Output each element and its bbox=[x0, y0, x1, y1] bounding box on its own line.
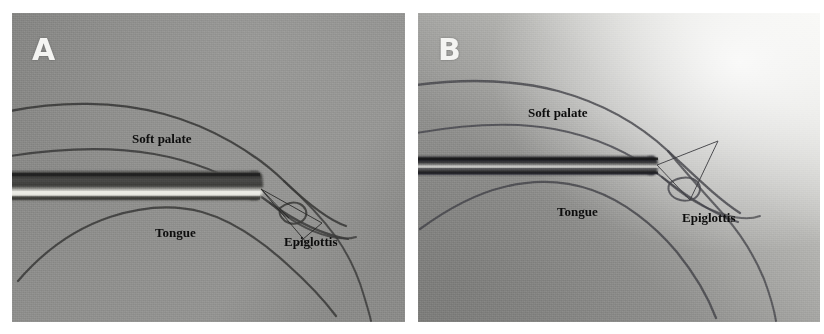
label-soft-palate-b: Soft palate bbox=[528, 106, 588, 119]
panel-a-image bbox=[12, 13, 405, 322]
panel-letter-b: B bbox=[438, 35, 461, 65]
label-soft-palate-a: Soft palate bbox=[132, 132, 192, 145]
endoscope-tube-a bbox=[12, 171, 263, 200]
figure-container: A Soft palate Tongue Epiglottis bbox=[0, 0, 824, 334]
label-tongue-b: Tongue bbox=[557, 205, 598, 218]
panel-a: A Soft palate Tongue Epiglottis bbox=[12, 13, 405, 322]
label-tongue-a: Tongue bbox=[155, 226, 196, 239]
label-epiglottis-b: Epiglottis bbox=[682, 211, 735, 224]
panel-letter-a: A bbox=[32, 35, 55, 65]
endoscope-tube-b bbox=[418, 156, 658, 175]
panel-b: B Soft palate Tongue Epiglottis bbox=[418, 13, 820, 322]
label-epiglottis-a: Epiglottis bbox=[284, 235, 337, 248]
panel-b-image bbox=[418, 13, 820, 322]
